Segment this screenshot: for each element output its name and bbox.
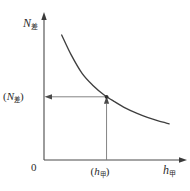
horizontal-guide-arrowhead	[45, 94, 53, 99]
x-axis-title: h甲	[163, 164, 176, 178]
y-axis-title-symbol: N	[23, 16, 31, 30]
x-value-tick-label: (h甲)	[91, 166, 110, 178]
x-axis-arrowhead	[179, 157, 187, 162]
x-axis-group	[44, 157, 187, 162]
y-axis-group	[41, 12, 46, 160]
y-value-close-paren: )	[20, 90, 24, 102]
decay-curve	[62, 35, 169, 124]
x-value-close-paren: )	[106, 165, 110, 177]
vertical-guide-group	[104, 96, 109, 160]
y-axis-title: N差	[23, 17, 38, 31]
x-axis-title-subscript: 甲	[169, 170, 176, 178]
operating-point-marker	[105, 95, 109, 99]
horizontal-guide-group	[45, 94, 107, 99]
origin-label: 0	[31, 162, 37, 173]
y-value-symbol: N	[7, 90, 14, 102]
y-axis-arrowhead	[41, 12, 46, 20]
figure-container: N差 h甲 (N差) (h甲) 0	[0, 0, 190, 191]
y-value-tick-label: (N差)	[3, 91, 24, 103]
y-axis-title-subscript: 差	[31, 23, 38, 31]
